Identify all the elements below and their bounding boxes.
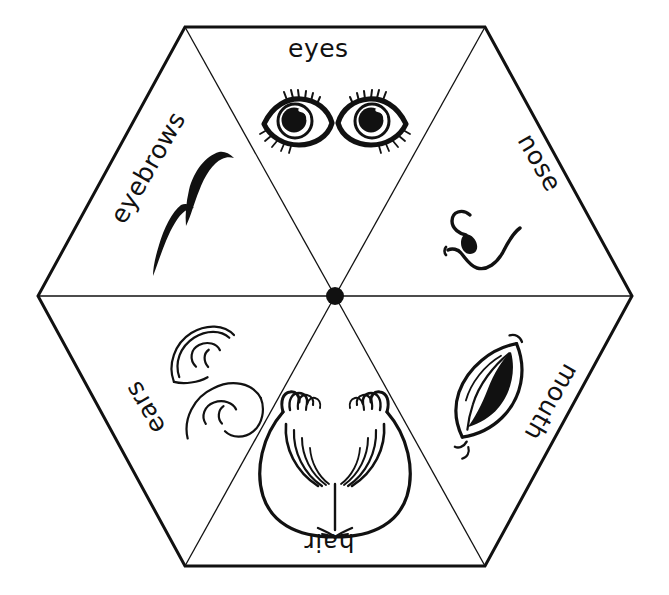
face-parts-wheel-figure: eyes nose mouth hair ears eyebrows xyxy=(0,0,669,595)
sector-label-eyes: eyes xyxy=(288,36,349,61)
center-dot xyxy=(326,287,344,305)
wheel-canvas xyxy=(0,0,669,595)
sector-label-hair: hair xyxy=(304,530,354,555)
